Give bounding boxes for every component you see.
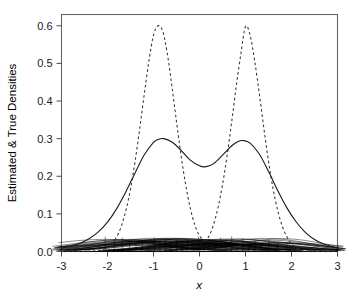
y-tick-label: 0.3	[37, 133, 52, 145]
y-tick-label: 0.5	[37, 57, 52, 69]
x-tick-label: 1	[242, 260, 248, 272]
x-tick-label: 2	[288, 260, 294, 272]
y-tick-label: 0.6	[37, 20, 52, 32]
y-axis-ticks: 0.00.10.20.30.40.50.6	[37, 20, 61, 258]
y-tick-label: 0.1	[37, 208, 52, 220]
x-tick-label: -1	[149, 260, 159, 272]
y-tick-label: 0.0	[37, 246, 52, 258]
true-density-curve	[62, 26, 338, 252]
chart-canvas: 0.00.10.20.30.40.50.6 -3-2-10123 x Estim…	[0, 0, 352, 302]
x-tick-label: 3	[334, 260, 340, 272]
kernel-components-series	[53, 236, 347, 251]
x-axis-title: x	[195, 279, 203, 291]
x-tick-label: 0	[196, 260, 202, 272]
y-tick-label: 0.2	[37, 170, 52, 182]
estimated-density-curve	[62, 138, 338, 248]
x-tick-label: -3	[57, 260, 67, 272]
y-tick-label: 0.4	[37, 95, 52, 107]
x-tick-label: -2	[103, 260, 113, 272]
y-axis-title: Estimated & True Densities	[6, 63, 18, 202]
x-axis-ticks: -3-2-10123	[57, 252, 341, 272]
density-plot-figure: 0.00.10.20.30.40.50.6 -3-2-10123 x Estim…	[0, 0, 352, 302]
plot-frame	[62, 15, 338, 252]
